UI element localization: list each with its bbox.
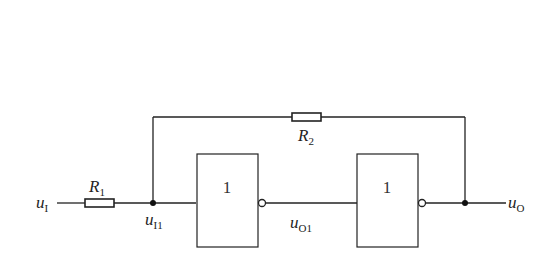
inverter-gate-1 [197,154,258,247]
junction-node-output [462,200,468,206]
gate1-inversion-bubble [259,200,266,207]
resistor-r2 [292,113,321,121]
label-r1: R1 [88,177,105,198]
gate1-symbol: 1 [223,178,232,197]
resistor-r1 [85,199,114,207]
label-output-uO: uO [508,193,525,214]
junction-node-i1 [150,200,156,206]
label-node-uI1: uI1 [145,210,163,231]
label-input-uI: uI [36,193,49,214]
inverter-gate-2 [357,154,418,247]
gate2-symbol: 1 [383,178,392,197]
circuit-diagram: 1 1 uI R1 R2 uI1 uO1 uO [0,0,560,255]
gate2-inversion-bubble [419,200,426,207]
label-node-uO1: uO1 [290,213,312,234]
label-r2: R2 [297,126,314,147]
